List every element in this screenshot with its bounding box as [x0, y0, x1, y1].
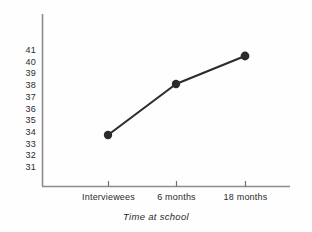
- y-tick-label: 32: [10, 151, 36, 160]
- y-tick-label: 38: [10, 81, 36, 90]
- y-tick-label: 37: [10, 93, 36, 102]
- y-tick-label: 36: [10, 105, 36, 114]
- y-tick-label: 34: [10, 128, 36, 137]
- x-tick-label-18-months: 18 months: [205, 192, 286, 202]
- line-chart: 41 40 39 38 37 36 35 34 33 32 31 Intervi…: [0, 0, 312, 232]
- y-tick-label: 40: [10, 58, 36, 67]
- data-point-marker: [241, 52, 250, 61]
- x-axis-title: Time at school: [0, 211, 312, 222]
- y-tick-label: 41: [10, 46, 36, 55]
- y-tick-label: 35: [10, 116, 36, 125]
- data-line-series: [108, 56, 245, 135]
- data-point-marker: [172, 80, 180, 88]
- y-tick-label: 33: [10, 140, 36, 149]
- data-point-marker: [104, 131, 112, 139]
- y-tick-label: 39: [10, 69, 36, 78]
- y-tick-label: 31: [10, 163, 36, 172]
